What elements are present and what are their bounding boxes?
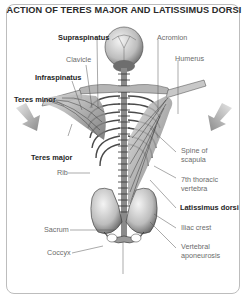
label-acromion: Acromion xyxy=(157,34,187,42)
label-clavicle: Clavicle xyxy=(66,56,91,64)
label-thoracic-vertebra-2: vertebra xyxy=(181,185,207,193)
label-iliac-crest: Iliac crest xyxy=(181,224,211,232)
label-infraspinatus: Infraspinatus xyxy=(35,74,81,82)
skull xyxy=(105,27,143,72)
label-humerus: Humerus xyxy=(175,55,204,63)
arrow-down-icon xyxy=(208,103,232,131)
label-vertebral-aponeurosis-2: aponeurosis xyxy=(181,252,220,260)
arrow-down-icon xyxy=(16,103,40,131)
label-coccyx: Coccyx xyxy=(47,249,71,257)
label-latissimus-dorsi: Latissimus dorsi xyxy=(180,204,239,212)
label-teres-major: Teres major xyxy=(31,154,72,162)
label-teres-minor: Teres minor xyxy=(14,96,56,104)
label-spine-of-scapula-2: scapula xyxy=(181,156,206,164)
label-rib: Rib xyxy=(57,169,68,177)
label-supraspinatus: Supraspinatus xyxy=(58,34,109,42)
label-sacrum: Sacrum xyxy=(44,226,69,234)
